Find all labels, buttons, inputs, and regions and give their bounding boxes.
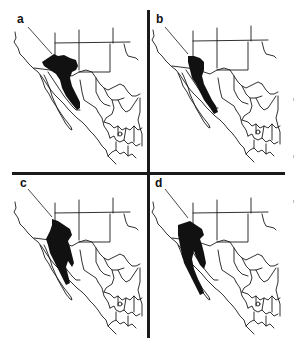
map-panel-a: a (0, 0, 150, 172)
map-d (150, 175, 300, 349)
edge-mark (293, 155, 294, 158)
pointer-line (28, 189, 52, 217)
pointer-line (28, 27, 52, 54)
panel-label-a: a (17, 13, 24, 25)
map-c (0, 175, 150, 349)
range-d (178, 221, 206, 295)
range-b (188, 56, 218, 114)
horizontal-divider (12, 172, 285, 175)
panel-label-c: c (20, 177, 27, 189)
range-c (46, 219, 74, 285)
edge-mark (293, 200, 294, 203)
pointer-line (165, 189, 188, 218)
map-panel-d: d (150, 175, 300, 347)
edge-mark (293, 98, 294, 101)
panel-label-d: d (155, 177, 162, 189)
map-b (150, 0, 300, 172)
pointer-line (165, 27, 188, 54)
panel-label-b: b (156, 13, 163, 25)
figure: a b c d (0, 0, 300, 349)
map-panel-c: c (0, 175, 150, 347)
map-panel-b: b (150, 0, 300, 172)
